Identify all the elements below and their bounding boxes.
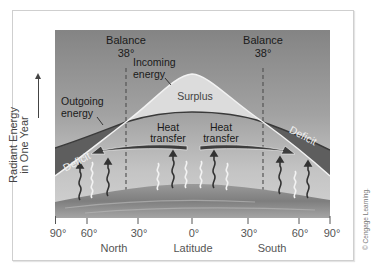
balance-left-label: Balance — [106, 34, 146, 46]
heat-transfer-right-line2: transfer — [203, 132, 239, 144]
copyright-notice: © Cengage Learning. — [362, 188, 369, 250]
x-tick-90s: 90° — [324, 227, 341, 239]
energy-balance-plot: Balance 38° Balance 38° Incoming energy … — [55, 30, 330, 218]
balance-left-value: 38° — [118, 47, 135, 59]
x-group-south: South — [258, 242, 287, 254]
x-tick-60n: 60° — [81, 227, 98, 239]
x-tick-0: 0° — [189, 227, 200, 239]
x-tick-30s: 30° — [241, 227, 258, 239]
light-wave-arrow-icon — [200, 161, 202, 188]
light-wave-arrow-icon — [294, 171, 296, 198]
x-tick-90n: 90° — [50, 227, 67, 239]
incoming-energy-label-line2: energy — [133, 68, 166, 80]
light-wave-arrow-icon — [226, 163, 228, 190]
surplus-label: Surplus — [177, 90, 213, 102]
y-axis-up-arrow-icon — [38, 78, 39, 118]
y-axis-label-line2: in One Year — [19, 85, 30, 205]
balance-right-label: Balance — [243, 34, 283, 46]
x-tick-60s: 60° — [292, 227, 309, 239]
light-wave-arrow-icon — [157, 163, 159, 190]
light-wave-arrow-icon — [185, 161, 187, 188]
x-tick-30n: 30° — [131, 227, 148, 239]
outgoing-energy-label-line1: Outgoing — [61, 95, 104, 107]
outgoing-energy-label-line2: energy — [61, 107, 94, 119]
incoming-energy-label-line1: Incoming — [133, 56, 176, 68]
y-axis-label: Radiant Energy in One Year — [8, 85, 30, 205]
x-axis-ticks — [55, 216, 331, 226]
heat-transfer-left-line2: transfer — [150, 132, 186, 144]
x-group-latitude: Latitude — [173, 242, 212, 254]
x-group-north: North — [101, 242, 128, 254]
balance-right-value: 38° — [255, 47, 272, 59]
